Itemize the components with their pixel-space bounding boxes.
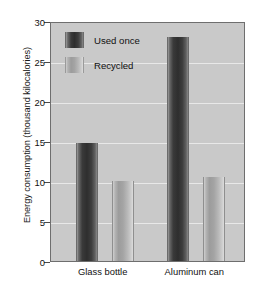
y-tick-label-30: 30 [19,17,45,28]
plot-area: Used once Recycled [50,22,245,262]
legend-item-used-once: Used once [65,31,140,49]
legend-label-recycled: Recycled [94,60,133,71]
bar-glass-bottle-used-once[interactable] [76,143,98,261]
y-tick-label-10: 10 [19,177,45,188]
y-tick-label-25: 25 [19,57,45,68]
bar-glass-bottle-recycled[interactable] [112,181,134,261]
y-tick-label-20: 20 [19,97,45,108]
legend-swatch-recycled-icon [65,57,84,73]
x-tick-label-aluminum-can: Aluminum can [165,266,224,277]
chart-legend: Used once Recycled [65,31,140,81]
gridline-20 [51,103,244,104]
legend-label-used-once: Used once [94,35,140,46]
bar-aluminum-can-recycled[interactable] [203,177,225,261]
legend-swatch-used-once-icon [65,32,84,48]
chart-figure: Energy consumption (thousand kilocalorie… [0,0,256,283]
x-tick-label-glass-bottle: Glass bottle [78,266,128,277]
bar-aluminum-can-used-once[interactable] [167,37,189,261]
y-tick-label-5: 5 [19,217,45,228]
y-tick-label-15: 15 [19,137,45,148]
y-tick-label-0: 0 [19,257,45,268]
legend-item-recycled: Recycled [65,56,140,74]
